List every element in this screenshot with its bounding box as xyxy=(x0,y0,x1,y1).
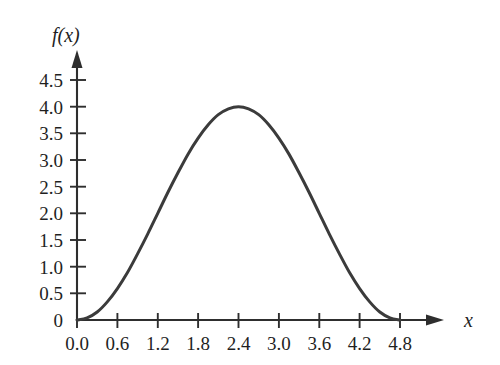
y-tick-label-4-5: 4.5 xyxy=(39,70,63,91)
y-tick-label-0: 0 xyxy=(54,310,64,331)
axes xyxy=(72,50,445,326)
x-tick-label-0-0: 0.0 xyxy=(65,333,89,354)
x-axis-title: x xyxy=(463,309,473,331)
function-curve xyxy=(77,107,400,320)
x-axis-tick-labels: 0.0 0.6 1.2 1.8 2.4 3.0 3.6 4.2 4.8 xyxy=(65,333,412,354)
y-tick-label-1-5: 1.5 xyxy=(39,230,63,251)
y-tick-label-1-0: 1.0 xyxy=(39,257,63,278)
x-tick-label-0-6: 0.6 xyxy=(106,333,130,354)
y-tick-label-4-0: 4.0 xyxy=(39,97,63,118)
y-axis-arrowhead xyxy=(72,50,83,68)
x-tick-label-1-8: 1.8 xyxy=(186,333,210,354)
x-tick-label-4-2: 4.2 xyxy=(348,333,372,354)
y-tick-label-0-5: 0.5 xyxy=(39,283,63,304)
chart-figure: 4.5 4.0 3.5 3.0 2.5 2.0 1.5 1.0 0.5 0 0.… xyxy=(0,0,500,365)
y-axis-title: f(x) xyxy=(52,24,80,47)
x-tick-label-3-0: 3.0 xyxy=(267,333,291,354)
y-axis-tick-labels: 4.5 4.0 3.5 3.0 2.5 2.0 1.5 1.0 0.5 0 xyxy=(39,70,63,331)
function-plot: 4.5 4.0 3.5 3.0 2.5 2.0 1.5 1.0 0.5 0 0.… xyxy=(0,0,500,365)
x-axis-arrowhead xyxy=(426,315,444,326)
y-tick-label-2-0: 2.0 xyxy=(39,203,63,224)
x-tick-label-4-8: 4.8 xyxy=(388,333,412,354)
y-tick-label-3-5: 3.5 xyxy=(39,123,63,144)
x-tick-label-3-6: 3.6 xyxy=(307,333,331,354)
y-tick-label-3-0: 3.0 xyxy=(39,150,63,171)
y-tick-label-2-5: 2.5 xyxy=(39,177,63,198)
x-tick-label-2-4: 2.4 xyxy=(227,333,251,354)
x-tick-label-1-2: 1.2 xyxy=(146,333,170,354)
